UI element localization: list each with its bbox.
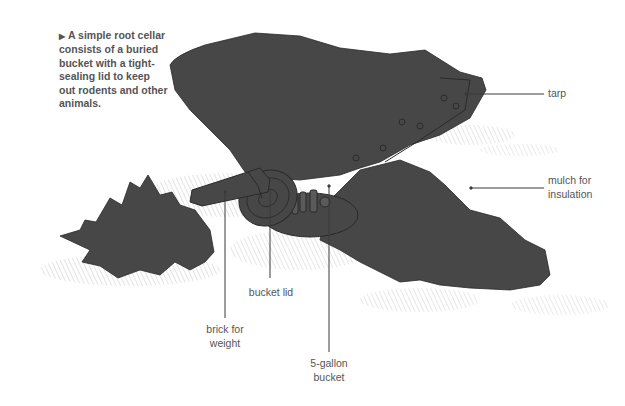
label-tarp: tarp: [548, 87, 566, 101]
label-bucket-lid: bucket lid: [236, 286, 306, 300]
label-mulch: mulch for insulation: [548, 174, 592, 201]
label-bucket: 5-gallon bucket: [294, 357, 364, 384]
tarp: [170, 33, 486, 180]
mulch-right: [320, 160, 550, 290]
label-brick: brick for weight: [190, 323, 260, 350]
root-cellar-illustration: [0, 0, 625, 406]
